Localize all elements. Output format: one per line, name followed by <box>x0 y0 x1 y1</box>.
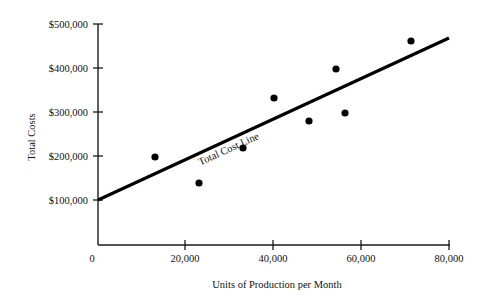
y-tick-label-300000: $300,000 <box>49 107 88 118</box>
data-point <box>151 153 158 160</box>
y-tick-label-500000: $500,000 <box>49 19 88 30</box>
chart-container: $500,000 $400,000 $300,000 $200,000 $100… <box>0 0 488 302</box>
data-point <box>305 117 312 124</box>
x-tick-label-0: 0 <box>89 253 94 264</box>
data-point <box>195 179 202 186</box>
data-point <box>341 109 348 116</box>
y-tick-label-400000: $400,000 <box>49 63 88 74</box>
x-axis-title: Units of Production per Month <box>212 279 342 290</box>
x-tick-label-80000: 80,000 <box>435 253 464 264</box>
scatter-plot-svg: $500,000 $400,000 $300,000 $200,000 $100… <box>0 0 488 302</box>
y-axis-title: Total Costs <box>26 113 37 160</box>
data-point <box>332 65 339 72</box>
data-point <box>407 37 414 44</box>
data-point <box>239 144 246 151</box>
total-cost-trend-line <box>98 38 449 200</box>
x-tick-label-60000: 60,000 <box>347 253 376 264</box>
y-tick-label-100000: $100,000 <box>49 195 88 206</box>
data-point <box>270 94 277 101</box>
x-tick-label-20000: 20,000 <box>171 253 200 264</box>
x-tick-label-40000: 40,000 <box>259 253 288 264</box>
y-tick-label-200000: $200,000 <box>49 151 88 162</box>
